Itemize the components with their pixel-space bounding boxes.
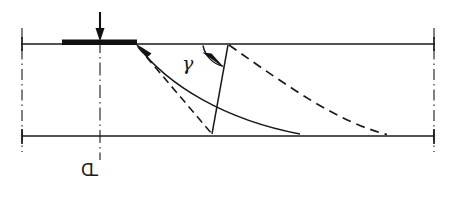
diagram-canvas <box>0 0 458 198</box>
inner-slip-surface-dashed <box>138 47 212 134</box>
gamma-arc-arrowhead <box>203 53 226 69</box>
strip-footing-plate <box>62 40 137 46</box>
applied-load-arrow <box>96 12 105 42</box>
bearing-capacity-diagram: γ СL <box>0 0 458 198</box>
log-spiral-slip-surface-solid <box>137 45 300 134</box>
centerline-symbol-label: СL <box>81 162 94 179</box>
gamma-angle-label: γ <box>182 54 193 73</box>
